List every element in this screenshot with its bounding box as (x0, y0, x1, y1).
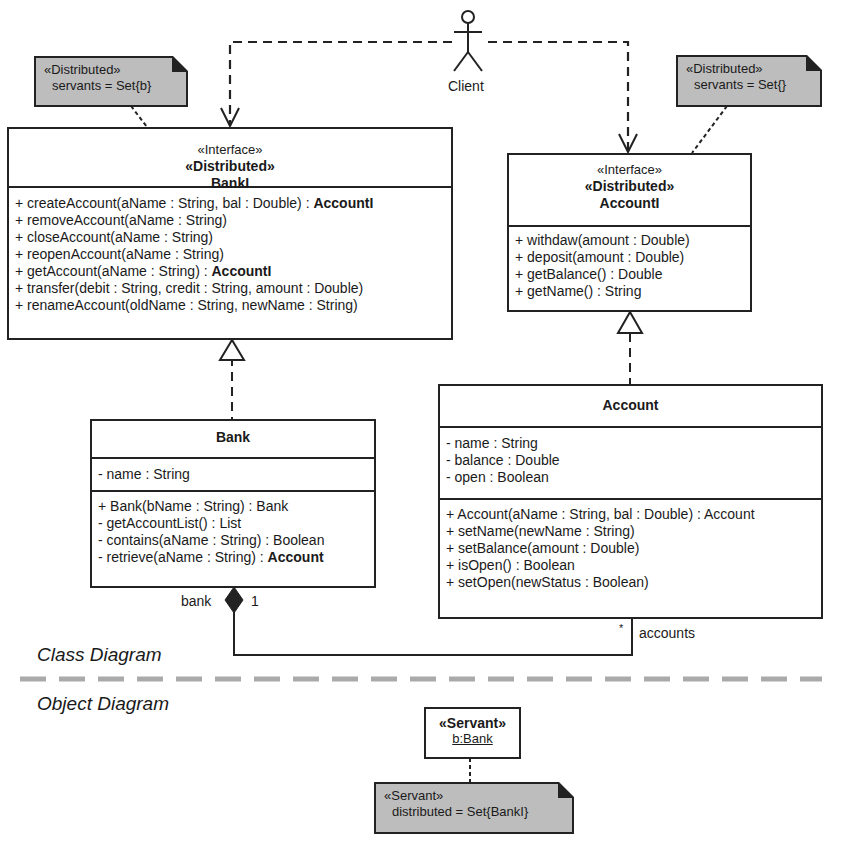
role-bank-label: bank (181, 593, 211, 609)
operation: + getAccount(aName : String) : AccountI (15, 263, 445, 280)
operation: + getBalance() : Double (515, 266, 744, 283)
dependency-client-banki (230, 42, 452, 126)
class-stereotype: «Distributed» (9, 158, 451, 175)
class-account[interactable]: Account - name : String - balance : Doub… (438, 384, 823, 619)
operations-compartment: + Account(aName : String, bal : Double) … (440, 500, 821, 594)
operation: + createAccount(aName : String, bal : Do… (15, 195, 445, 212)
operation: + withdaw(amount : Double) (515, 232, 744, 249)
note-stereotype: «Distributed» (44, 62, 178, 78)
attribute: - balance : Double (446, 452, 815, 469)
section-title-object-diagram: Object Diagram (37, 693, 169, 715)
class-bank[interactable]: Bank - name : String + Bank(bName : Stri… (90, 419, 376, 588)
operations-compartment: + Bank(bName : String) : Bank - getAccou… (92, 492, 374, 569)
class-accounti[interactable]: «Interface» «Distributed» AccountI + wit… (507, 153, 752, 312)
class-stereotype: «Distributed» (509, 178, 750, 195)
class-name: AccountI (509, 195, 750, 212)
object-b-bank[interactable]: «Servant» b:Bank (424, 707, 521, 759)
actor-label: Client (448, 78, 484, 94)
actor-icon (454, 11, 482, 71)
note-tagged-value: distributed = Set{BankI} (384, 804, 564, 820)
operation: + Account(aName : String, bal : Double) … (446, 506, 815, 523)
attribute: - name : String (98, 466, 368, 483)
operation: + setOpen(newStatus : Boolean) (446, 574, 815, 591)
operation: + isOpen() : Boolean (446, 557, 815, 574)
object-stereotype: «Servant» (432, 715, 513, 731)
note-stereotype: «Servant» (384, 788, 564, 804)
note-tagged-value: servants = Set{} (686, 77, 812, 93)
operation: - retrieve(aName : String) : Account (98, 549, 368, 566)
operation: + closeAccount(aName : String) (15, 229, 445, 246)
class-name: Account (440, 397, 821, 414)
note-stereotype: «Distributed» (686, 61, 812, 77)
note-tagged-value: servants = Set{b} (44, 78, 178, 94)
operation: + setBalance(amount : Double) (446, 540, 815, 557)
operation: + transfer(debit : String, credit : Stri… (15, 280, 445, 297)
class-name: Bank (92, 429, 374, 446)
note-banki-servants: «Distributed» servants = Set{b} (34, 56, 188, 107)
class-banki[interactable]: «Interface» «Distributed» BankI + create… (7, 127, 453, 340)
note-servant-distributed: «Servant» distributed = Set{BankI} (374, 782, 574, 834)
note-anchor-banki (131, 106, 147, 127)
section-title-class-diagram: Class Diagram (37, 644, 162, 666)
object-name: b:Bank (432, 731, 513, 747)
operation: + removeAccount(aName : String) (15, 212, 445, 229)
attributes-compartment: - name : String - balance : Double - ope… (440, 428, 821, 500)
note-anchor-accounti (692, 106, 727, 153)
attribute: - name : String (446, 435, 815, 452)
operation: + Bank(bName : String) : Bank (98, 498, 368, 515)
operation: + deposit(amount : Double) (515, 249, 744, 266)
operations-compartment: + createAccount(aName : String, bal : Do… (9, 188, 451, 317)
class-stereotype: «Interface» (9, 141, 451, 158)
operations-compartment: + withdaw(amount : Double) + deposit(amo… (509, 227, 750, 303)
operation: + setName(newName : String) (446, 523, 815, 540)
class-stereotype: «Interface» (509, 161, 750, 178)
multiplicity-one-label: 1 (251, 593, 259, 609)
dependency-client-accounti (488, 42, 628, 152)
attribute: - open : Boolean (446, 469, 815, 486)
note-accounti-servants: «Distributed» servants = Set{} (676, 55, 822, 107)
operation: + reopenAccount(aName : String) (15, 246, 445, 263)
operation: - contains(aName : String) : Boolean (98, 532, 368, 549)
operation: + getName() : String (515, 283, 744, 300)
multiplicity-many-label: * (619, 622, 623, 634)
role-accounts-label: accounts (639, 625, 695, 641)
attributes-compartment: - name : String (92, 459, 374, 492)
operation: - getAccountList() : List (98, 515, 368, 532)
operation: + renameAccount(oldName : String, newNam… (15, 297, 445, 314)
